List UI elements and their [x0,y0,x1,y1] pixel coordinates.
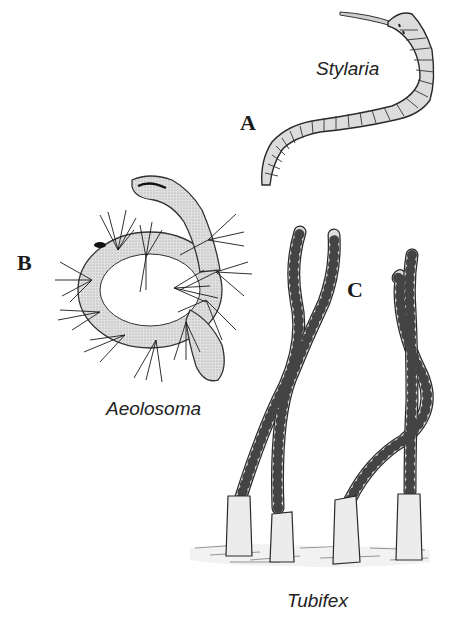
stylaria-worm [262,12,434,185]
annelid-figure: A Stylaria B Aeolosoma C Tubifex [0,0,462,630]
panel-label-a: A [240,110,256,136]
species-label-stylaria: Stylaria [316,58,379,80]
panel-label-b: B [17,250,32,276]
tube-3 [333,496,360,564]
tube-2 [270,512,294,562]
illustration [0,0,462,630]
species-label-tubifex: Tubifex [287,590,348,612]
species-label-aeolosoma: Aeolosoma [106,398,201,420]
panel-label-c: C [347,277,363,303]
tubifex-colony [190,232,430,567]
tube-4 [396,494,422,560]
tube-1 [226,496,252,556]
aeolosoma-worm [55,176,252,382]
